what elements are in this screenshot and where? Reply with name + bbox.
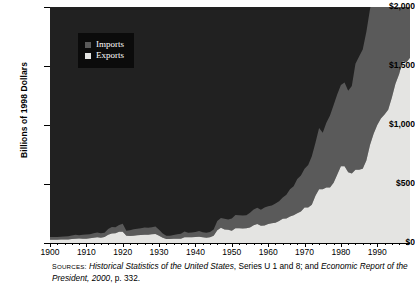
x-tick-mark <box>159 243 160 247</box>
x-tick-label: 1940 <box>175 247 215 257</box>
x-minor-tick <box>137 243 138 245</box>
x-tick-label: 1900 <box>30 247 70 257</box>
x-minor-tick <box>246 243 247 245</box>
x-minor-tick <box>94 243 95 245</box>
x-minor-tick <box>152 243 153 245</box>
y-tick-label: $2,000 <box>369 1 415 11</box>
x-minor-tick <box>355 243 356 245</box>
x-minor-tick <box>115 243 116 245</box>
x-minor-tick <box>392 243 393 245</box>
x-minor-tick <box>79 243 80 245</box>
legend-swatch-imports <box>85 42 91 48</box>
x-minor-tick <box>108 243 109 245</box>
x-minor-tick <box>334 243 335 245</box>
x-tick-label: 1930 <box>139 247 179 257</box>
x-minor-tick <box>290 243 291 245</box>
y-tick-mark <box>44 125 50 126</box>
legend-swatch-exports <box>85 53 91 59</box>
x-minor-tick <box>385 243 386 245</box>
x-minor-tick <box>210 243 211 245</box>
x-tick-mark <box>232 243 233 247</box>
x-minor-tick <box>188 243 189 245</box>
source-title-1: Historical Statistics of the United Stat… <box>89 261 234 271</box>
x-minor-tick <box>239 243 240 245</box>
x-tick-mark <box>268 243 269 247</box>
source-colon: : <box>85 263 87 270</box>
x-minor-tick <box>130 243 131 245</box>
x-minor-tick <box>283 243 284 245</box>
x-tick-mark <box>341 243 342 247</box>
x-minor-tick <box>363 243 364 245</box>
x-minor-tick <box>166 243 167 245</box>
legend-label-exports: Exports <box>96 51 124 60</box>
x-minor-tick <box>275 243 276 245</box>
y-tick-mark <box>44 184 50 185</box>
x-minor-tick <box>254 243 255 245</box>
x-minor-tick <box>261 243 262 245</box>
x-minor-tick <box>174 243 175 245</box>
x-tick-mark <box>305 243 306 247</box>
chart-figure: Billions of 1998 Dollars $0$500$1,000$1,… <box>0 0 415 289</box>
legend-item-exports: Exports <box>85 51 124 60</box>
x-minor-tick <box>57 243 58 245</box>
x-tick-mark <box>377 243 378 247</box>
x-minor-tick <box>101 243 102 245</box>
x-minor-tick <box>326 243 327 245</box>
x-minor-tick <box>145 243 146 245</box>
x-minor-tick <box>312 243 313 245</box>
source-note: SOURCES: Historical Statistics of the Un… <box>52 261 410 284</box>
x-tick-mark <box>123 243 124 247</box>
y-tick-label: $1,500 <box>369 60 415 70</box>
y-tick-label: $0 <box>369 237 415 247</box>
x-tick-label: 1910 <box>66 247 106 257</box>
x-tick-label: 1950 <box>212 247 252 257</box>
legend-item-imports: Imports <box>85 40 124 49</box>
x-minor-tick <box>181 243 182 245</box>
y-tick-label: $500 <box>369 178 415 188</box>
x-tick-label: 1990 <box>357 247 397 257</box>
source-prefix-caps: OURCES <box>57 263 85 270</box>
x-minor-tick <box>348 243 349 245</box>
y-tick-label: $1,000 <box>369 119 415 129</box>
x-minor-tick <box>399 243 400 245</box>
x-tick-mark <box>195 243 196 247</box>
x-minor-tick <box>406 243 407 245</box>
x-minor-tick <box>370 243 371 245</box>
x-tick-mark <box>50 243 51 247</box>
x-minor-tick <box>65 243 66 245</box>
x-minor-tick <box>217 243 218 245</box>
x-minor-tick <box>225 243 226 245</box>
x-minor-tick <box>297 243 298 245</box>
x-tick-label: 1920 <box>103 247 143 257</box>
x-tick-label: 1970 <box>285 247 325 257</box>
x-tick-label: 1980 <box>321 247 361 257</box>
x-minor-tick <box>72 243 73 245</box>
legend-label-imports: Imports <box>96 40 124 49</box>
x-tick-mark <box>86 243 87 247</box>
y-tick-mark <box>44 66 50 67</box>
y-tick-mark <box>44 7 50 8</box>
x-minor-tick <box>319 243 320 245</box>
chart-legend: Imports Exports <box>78 33 134 68</box>
x-tick-label: 1960 <box>248 247 288 257</box>
x-minor-tick <box>203 243 204 245</box>
source-mid: , Series U 1 and 8; and <box>234 261 321 271</box>
source-end: , p. 332. <box>110 273 140 283</box>
y-axis-title: Billions of 1998 Dollars <box>19 55 29 165</box>
